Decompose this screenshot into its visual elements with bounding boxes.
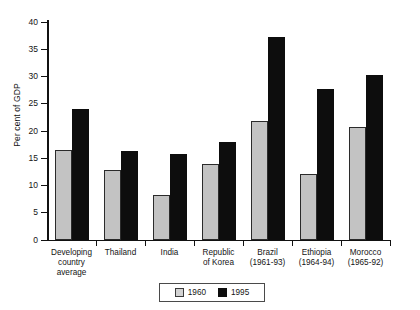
y-axis-tick-label: 25 (0, 99, 38, 108)
y-axis-tick-label: 0 (0, 236, 38, 245)
bar-chart-figure: Per cent of GDP 0510152025303540 Develop… (0, 0, 420, 310)
bar-1995-0 (72, 109, 89, 240)
bar-1960-0 (55, 150, 72, 240)
x-axis-tick-mark (96, 240, 97, 246)
black-swatch (218, 288, 227, 297)
x-axis-tick-mark (145, 240, 146, 246)
plot-area (47, 22, 390, 240)
chart-legend: 19601995 (159, 283, 265, 302)
y-axis-tick-label: 35 (0, 45, 38, 54)
category-label-line: (1965-92) (337, 258, 394, 268)
legend-label: 1995 (231, 288, 249, 297)
y-axis-tick-label: 20 (0, 127, 38, 136)
bar-1960-2 (153, 195, 170, 240)
y-axis-tick-label: 5 (0, 208, 38, 217)
category-label-line: average (43, 268, 100, 278)
y-axis-tick-label: 30 (0, 72, 38, 81)
bar-1995-3 (219, 142, 236, 240)
bar-1960-4 (251, 121, 268, 240)
category-label-line: country (43, 258, 100, 268)
bar-1960-5 (300, 174, 317, 240)
legend-item-1960: 1960 (175, 288, 206, 297)
light-gray-swatch (175, 288, 184, 297)
legend-item-1995: 1995 (218, 288, 249, 297)
bar-1995-6 (366, 75, 383, 240)
x-axis-tick-mark (341, 240, 342, 246)
x-axis-tick-mark (390, 240, 391, 246)
bar-1960-3 (202, 164, 219, 240)
category-label-6: Morocco(1965-92) (337, 248, 394, 268)
bar-1995-4 (268, 37, 285, 240)
y-axis-tick-label: 10 (0, 181, 38, 190)
bar-1960-1 (104, 170, 121, 240)
legend-label: 1960 (188, 288, 206, 297)
x-axis-tick-mark (292, 240, 293, 246)
bar-1960-6 (349, 127, 366, 240)
category-label-line: Morocco (337, 248, 394, 258)
y-axis-tick-label: 15 (0, 154, 38, 163)
bar-1995-2 (170, 154, 187, 240)
bar-1995-5 (317, 89, 334, 240)
x-axis-tick-mark (194, 240, 195, 246)
y-axis-tick-label: 40 (0, 18, 38, 27)
bar-1995-1 (121, 151, 138, 240)
x-axis-tick-mark (243, 240, 244, 246)
